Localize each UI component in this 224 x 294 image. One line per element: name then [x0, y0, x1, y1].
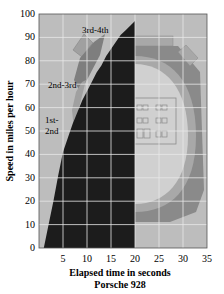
x-tick: 20 — [130, 253, 140, 264]
annotation-1st-2nd-b: 2nd — [45, 126, 59, 136]
annotation-3rd-4th: 3rd-4th — [82, 25, 109, 35]
x-axis-ticks: 5 10 15 20 25 30 35 — [61, 253, 213, 264]
x-tick: 30 — [178, 253, 188, 264]
y-tick: 10 — [25, 219, 35, 230]
x-axis-title: Elapsed time in seconds — [69, 267, 171, 278]
y-tick: 80 — [25, 55, 35, 66]
x-tick: 25 — [154, 253, 164, 264]
chart-subtitle: Porsche 928 — [94, 279, 145, 290]
y-tick: 0 — [30, 242, 35, 253]
x-tick: 35 — [202, 253, 212, 264]
y-tick: 100 — [20, 8, 35, 19]
y-tick: 90 — [25, 31, 35, 42]
y-tick: 60 — [25, 102, 35, 113]
x-tick: 5 — [61, 253, 66, 264]
y-tick: 70 — [25, 78, 35, 89]
annotation-1st-2nd-a: 1st- — [45, 115, 59, 125]
y-tick: 50 — [25, 125, 35, 136]
speed-chart: 3rd-4th 2nd-3rd 1st- 2nd 0 10 20 30 40 5… — [0, 0, 224, 294]
x-tick: 10 — [82, 253, 92, 264]
y-tick: 20 — [25, 195, 35, 206]
y-tick: 40 — [25, 148, 35, 159]
y-tick: 30 — [25, 172, 35, 183]
y-axis-ticks: 0 10 20 30 40 50 60 70 80 90 100 — [20, 8, 35, 253]
y-axis-title: Speed in miles per hour — [4, 80, 15, 181]
annotation-2nd-3rd: 2nd-3rd — [48, 80, 77, 90]
x-tick: 15 — [106, 253, 116, 264]
